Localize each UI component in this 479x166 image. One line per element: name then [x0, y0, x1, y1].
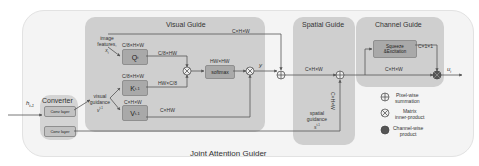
diagram-connections	[0, 0, 479, 166]
legend-channel-product-icon	[381, 126, 389, 134]
